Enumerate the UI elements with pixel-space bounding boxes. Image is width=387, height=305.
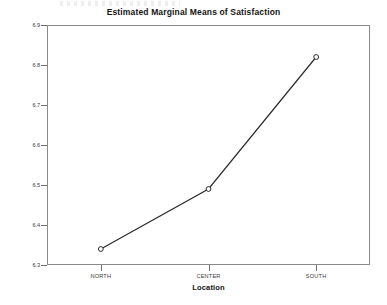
- y-tick-label: 6.4: [33, 222, 40, 228]
- y-tick-label: 6.8: [33, 62, 40, 68]
- data-point-marker: [98, 247, 103, 252]
- data-point-marker: [206, 187, 211, 192]
- y-tick-label: 6.9: [33, 22, 40, 28]
- y-tick-label: 6.6: [33, 142, 40, 148]
- y-tick-mark: [41, 265, 47, 266]
- y-tick-label: 6.3: [33, 262, 40, 268]
- x-tick-label: NORTH: [90, 273, 111, 279]
- x-tick-mark: [101, 265, 102, 271]
- chart-title: Estimated Marginal Means of Satisfaction: [0, 7, 387, 17]
- x-axis-title: Location: [47, 283, 370, 292]
- x-tick-mark: [316, 265, 317, 271]
- scan-artifact: [60, 1, 180, 6]
- y-tick-label: 6.5: [33, 182, 40, 188]
- series-line: [101, 57, 316, 249]
- x-tick-label: CENTER: [196, 273, 220, 279]
- x-tick-mark: [209, 265, 210, 271]
- line-series: [47, 25, 370, 265]
- data-point-marker: [314, 55, 319, 60]
- y-tick-label: 6.7: [33, 102, 40, 108]
- x-tick-label: SOUTH: [306, 273, 327, 279]
- plot-area: 6.96.86.76.66.56.46.3 NORTHCENTERSOUTH: [47, 25, 370, 265]
